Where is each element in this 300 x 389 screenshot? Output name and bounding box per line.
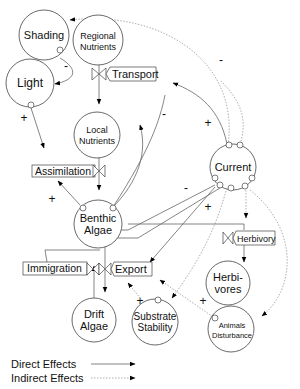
label-drift-algae: Algae [80, 320, 108, 332]
label-regional: Regional [80, 31, 116, 41]
legend: Direct Effects Indirect Effects [11, 358, 135, 384]
legend-indirect-label: Indirect Effects [11, 372, 84, 384]
node-benthic-algae: Benthic Algae [74, 200, 122, 248]
label-nutrients: Nutrients [80, 42, 117, 52]
sign-current-export-plus: + [204, 200, 211, 214]
sign-current-transport-minus: - [162, 107, 166, 121]
node-animals-disturbance: Animals Disturbance [208, 306, 254, 352]
node-local-nutrients: Local Nutrients [74, 112, 120, 158]
node-current: Current [210, 142, 256, 191]
label-substrate: Substrate [134, 311, 177, 322]
node-regional-nutrients: Regional Nutrients [73, 15, 123, 65]
sign-current-transport-plus: + [204, 116, 211, 130]
sign-current-export-minus: - [184, 181, 188, 195]
sign-animals-export: + [199, 294, 206, 308]
process-transport: Transport [92, 67, 159, 81]
sign-current-shading: - [219, 53, 223, 67]
label-light: Light [17, 76, 44, 90]
label-algae: Algae [84, 224, 112, 236]
node-drift-algae: Drift Algae [72, 298, 116, 342]
label-immigration: Immigration [27, 262, 82, 274]
label-herbivory: Herbivory [237, 234, 276, 244]
process-export: Export [99, 262, 152, 276]
label-assimilation: Assimilation [35, 165, 91, 177]
sign-light-assimilation: + [20, 111, 27, 125]
label-shading: Shading [24, 29, 64, 41]
label-local: Local [86, 125, 108, 135]
label-current: Current [215, 161, 252, 173]
process-assimilation: Assimilation [32, 165, 105, 177]
label-stability: Stability [137, 322, 172, 333]
node-light: Light [6, 59, 54, 108]
label-benthic: Benthic [80, 212, 117, 224]
label-vores: vores [215, 283, 242, 295]
legend-direct-label: Direct Effects [11, 358, 77, 370]
process-herbivory: Herbivory [223, 231, 276, 245]
label-animals: Animals [219, 321, 246, 330]
label-local-nutrients: Nutrients [79, 136, 116, 146]
label-herbi: Herbi- [213, 271, 243, 283]
ecosystem-diagram: Shading Regional Nutrients Light Local N… [0, 0, 300, 389]
sign-benthic-assimilation: + [48, 192, 55, 206]
label-transport: Transport [112, 68, 159, 80]
node-shading: Shading [19, 10, 69, 60]
label-export: Export [115, 263, 147, 275]
sign-shading-light: - [64, 59, 68, 73]
node-herbivores: Herbi- vores [206, 261, 250, 305]
process-immigration: Immigration [23, 262, 99, 275]
sign-substrate-export: + [136, 294, 143, 308]
label-drift: Drift [84, 308, 104, 320]
label-disturbance: Disturbance [212, 331, 252, 340]
